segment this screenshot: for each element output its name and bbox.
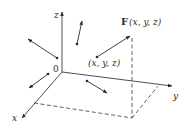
vector-arrow bbox=[86, 80, 107, 93]
vector-arrow bbox=[76, 21, 82, 45]
y-axis bbox=[62, 72, 172, 86]
x-axis-label: x bbox=[12, 113, 17, 123]
dashed-line-corner-to-y bbox=[132, 86, 158, 118]
vector-arrow bbox=[28, 39, 58, 59]
vector-arrow bbox=[29, 73, 49, 88]
projection-lines bbox=[34, 38, 158, 118]
field-vectors bbox=[28, 21, 130, 93]
field-vector-F bbox=[96, 36, 130, 58]
point-label: (x, y, z) bbox=[88, 58, 121, 68]
y-axis-label: y bbox=[172, 91, 179, 101]
origin-label: 0 bbox=[53, 64, 59, 74]
dashed-line-x-to-corner bbox=[34, 103, 132, 118]
field-vector-name: F bbox=[121, 16, 128, 27]
field-vector-args: (x, y, z) bbox=[129, 17, 162, 27]
z-axis-label: z bbox=[53, 10, 59, 20]
vector-field-diagram: z x y 0 (x, y, z) F(x, y, z) bbox=[0, 0, 192, 132]
field-vector-label: F(x, y, z) bbox=[121, 16, 162, 27]
